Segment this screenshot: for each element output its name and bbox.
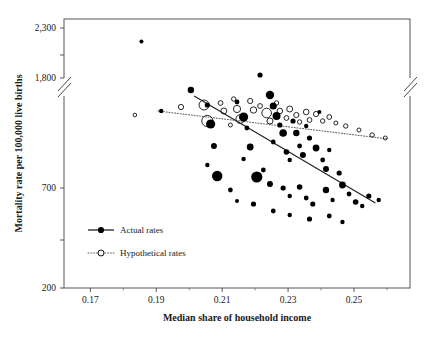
data-point-actual	[304, 124, 308, 128]
x-tick-label: 0.19	[148, 295, 165, 305]
axis-break-mark	[58, 77, 71, 97]
x-tick-label: 0.21	[214, 295, 231, 305]
data-point-actual	[337, 170, 342, 175]
legend-label: Hypothetical rates	[120, 248, 186, 258]
data-point-actual	[267, 181, 273, 187]
legend-item-hypothetical[interactable]: Hypothetical rates	[88, 248, 186, 258]
data-point-actual	[307, 135, 312, 140]
data-point-actual	[360, 204, 364, 208]
data-point-actual	[277, 122, 282, 127]
data-point-actual	[327, 214, 332, 219]
plot-frame	[58, 19, 417, 288]
y-tick-label: 1,800	[35, 73, 57, 83]
data-point-actual	[251, 201, 256, 206]
data-point-actual	[323, 187, 329, 193]
data-point-actual	[205, 102, 210, 107]
y-tick-label: 700	[42, 183, 57, 193]
legend-marker-open-circle-icon	[98, 250, 104, 256]
data-point-hypothetical	[327, 115, 332, 120]
data-point-actual	[297, 184, 303, 190]
data-point-actual	[244, 126, 249, 131]
data-point-hypothetical	[297, 120, 301, 124]
y-tick-label: 200	[42, 283, 57, 293]
data-point-actual	[228, 188, 233, 193]
data-point-actual	[281, 185, 286, 190]
data-point-actual	[330, 198, 334, 202]
x-axis-title: Median share of household income	[163, 312, 312, 323]
x-tick-label: 0.25	[346, 295, 363, 305]
data-point-actual	[271, 140, 276, 145]
data-point-actual	[297, 144, 302, 149]
legend-label: Actual rates	[120, 225, 164, 235]
data-point-hypothetical	[303, 109, 309, 115]
data-point-actual	[205, 163, 209, 167]
data-point-actual	[239, 112, 248, 121]
data-point-actual	[366, 193, 371, 198]
data-point-hypothetical	[250, 107, 256, 113]
legend-marker-filled-circle-icon	[98, 227, 104, 233]
data-point-actual	[261, 168, 266, 173]
data-point-actual	[300, 152, 306, 158]
y-tick-label: 2,300	[35, 23, 57, 33]
data-point-hypothetical	[284, 116, 289, 121]
data-point-actual	[313, 145, 320, 152]
data-point-hypothetical	[287, 106, 293, 112]
scatter-plot: 2,3001,8007002000.170.190.210.230.25Medi…	[0, 0, 431, 338]
data-point-actual	[339, 182, 346, 189]
data-point-hypothetical	[344, 124, 348, 128]
data-point-actual	[159, 109, 163, 113]
data-point-actual	[293, 130, 299, 136]
data-point-actual	[288, 158, 292, 162]
y-axis-title: Mortality rate per 100,000 live births	[13, 74, 24, 232]
data-point-hypothetical	[178, 104, 183, 109]
x-tick-label: 0.17	[82, 295, 99, 305]
data-point-hypothetical	[218, 101, 223, 106]
data-layer	[133, 40, 389, 225]
legend-item-actual[interactable]: Actual rates	[88, 225, 164, 235]
data-point-hypothetical	[267, 118, 273, 124]
data-point-actual	[347, 192, 352, 197]
data-point-actual	[270, 102, 277, 109]
data-point-hypothetical	[294, 112, 299, 117]
data-point-hypothetical	[228, 123, 232, 127]
x-tick-label: 0.23	[280, 295, 297, 305]
data-point-actual	[271, 209, 276, 214]
data-point-actual	[304, 196, 309, 201]
data-point-actual	[139, 40, 143, 44]
data-point-actual	[251, 171, 262, 182]
data-point-hypothetical	[258, 104, 263, 109]
data-point-actual	[320, 158, 325, 163]
data-point-actual	[206, 119, 215, 128]
data-point-hypothetical	[307, 118, 312, 123]
data-point-actual	[257, 72, 262, 77]
data-point-actual	[235, 199, 239, 203]
data-point-actual	[288, 194, 292, 198]
data-point-hypothetical	[262, 108, 272, 118]
data-point-hypothetical	[320, 119, 324, 123]
data-point-actual	[284, 149, 290, 155]
data-point-hypothetical	[357, 128, 361, 132]
legend: Actual ratesHypothetical rates	[88, 225, 186, 258]
data-point-hypothetical	[334, 121, 338, 125]
data-point-actual	[317, 110, 321, 114]
data-point-actual	[340, 220, 344, 224]
data-point-actual	[288, 213, 292, 217]
axis-break-mark	[404, 77, 417, 97]
data-point-actual	[307, 216, 312, 221]
axes: 2,3001,8007002000.170.190.210.230.25	[35, 23, 387, 305]
data-point-actual	[212, 171, 222, 181]
data-point-actual	[266, 91, 274, 99]
data-point-actual	[327, 148, 331, 152]
data-point-actual	[310, 201, 315, 206]
data-point-hypothetical	[233, 105, 240, 112]
data-point-hypothetical	[248, 98, 253, 103]
chart-figure: 2,3001,8007002000.170.190.210.230.25Medi…	[0, 0, 431, 338]
data-point-actual	[247, 144, 254, 151]
data-point-actual	[376, 198, 380, 202]
data-point-actual	[290, 118, 295, 123]
data-point-actual	[211, 143, 217, 149]
data-point-actual	[279, 129, 287, 137]
data-point-actual	[188, 87, 194, 93]
data-point-actual	[323, 166, 329, 172]
data-point-actual	[241, 157, 245, 161]
